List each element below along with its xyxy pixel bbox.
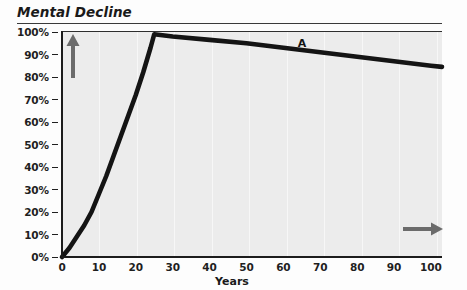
gridline-vertical [324,32,325,257]
up-arrow-icon [66,34,80,78]
gridline-vertical [249,32,250,257]
y-tick-mark [52,54,58,55]
gridline-vertical [399,32,400,257]
gridline-vertical [287,32,288,257]
x-tick-label: 70 [313,261,327,273]
x-tick-label: 10 [92,261,106,273]
y-tick-label: 10% [15,229,49,241]
x-tick-label: 40 [202,261,216,273]
y-tick-mark [52,257,58,258]
y-tick-mark [52,122,58,123]
y-tick-label: 20% [15,206,49,218]
y-tick-mark [52,99,58,100]
y-tick-label: 0% [15,251,49,263]
y-tick-label: 60% [15,116,49,128]
gridline-vertical [137,32,138,257]
y-tick-mark [52,234,58,235]
x-tick-label: 0 [58,261,65,273]
y-tick-mark [52,167,58,168]
x-tick-label: 50 [239,261,253,273]
x-tick-label: 30 [165,261,179,273]
y-tick-mark [52,32,58,33]
y-tick-label: 80% [15,71,49,83]
y-tick-label: 50% [15,139,49,151]
y-axis-line [61,31,63,258]
chart-title: Mental Decline [17,4,132,20]
title-underline-rule [17,23,442,24]
y-tick-mark [52,77,58,78]
x-tick-label: 100 [420,261,442,273]
y-tick-mark [52,144,58,145]
right-arrow-icon [403,222,443,236]
mental-decline-chart: Mental Decline 0%10%20%30%40%50%60%70%80… [0,0,467,290]
y-tick-label: 40% [15,161,49,173]
annotation-label-a: A [298,37,307,50]
x-tick-label: 90 [387,261,401,273]
x-tick-label: 60 [276,261,290,273]
x-axis-line [61,256,442,258]
y-tick-label: 90% [15,49,49,61]
y-tick-label: 100% [15,26,49,38]
gridline-vertical [174,32,175,257]
x-tick-label: 80 [350,261,364,273]
x-axis-title: Years [215,275,249,288]
x-tick-label: 20 [129,261,143,273]
y-tick-mark [52,189,58,190]
gridline-vertical [99,32,100,257]
gridline-vertical [212,32,213,257]
plot-top-border [62,31,442,32]
y-tick-label: 30% [15,184,49,196]
plot-area [62,32,442,257]
y-tick-label: 70% [15,94,49,106]
gridline-vertical [362,32,363,257]
y-tick-mark [52,212,58,213]
